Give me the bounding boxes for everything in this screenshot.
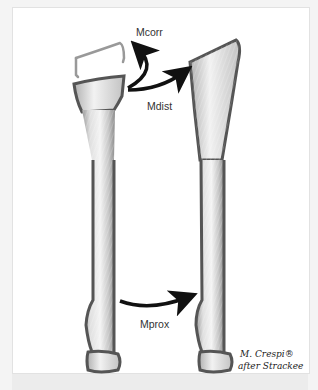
left-proximal-head: [87, 351, 120, 372]
mdist-label: Mdist: [147, 100, 172, 112]
right-proximal-head: [199, 351, 232, 372]
mprox-label: Mprox: [140, 318, 170, 330]
original-fragment-outline: [76, 43, 124, 62]
credit-author: M. Crespi®: [239, 349, 294, 359]
mcorr-arrow: [128, 48, 147, 88]
credit-source: after Strackee: [238, 361, 303, 371]
mprox-arrow: [120, 297, 188, 306]
mcorr-label: Mcorr: [136, 26, 163, 38]
original-fragment-outline-left: [76, 58, 78, 77]
left-distal-cap: [74, 76, 124, 112]
osteotomy-diagram: Mcorr Mdist Mprox M. Crespi® after Strac…: [0, 0, 318, 390]
